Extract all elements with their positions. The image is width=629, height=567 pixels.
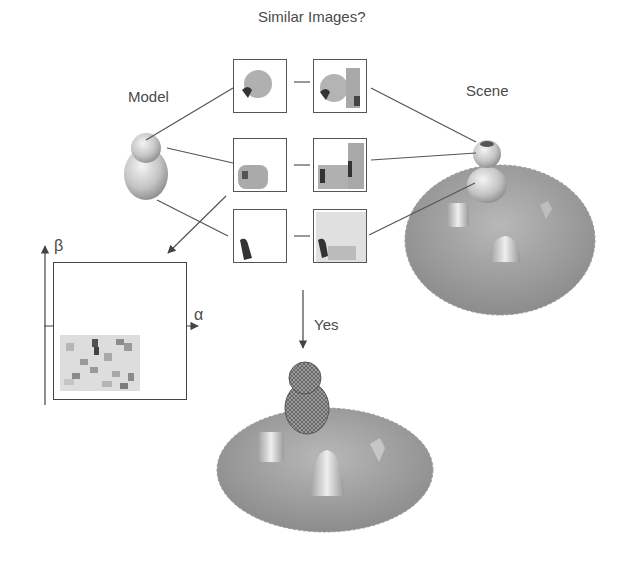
scene-surface <box>405 140 595 315</box>
spin-image-heatmap <box>54 263 188 401</box>
scene-spin-image-1 <box>313 59 367 113</box>
model-spin-image-2 <box>233 138 287 192</box>
scene-spin-image-2 <box>313 138 367 192</box>
model-spin-image-1 <box>233 59 287 113</box>
spin-image-plot <box>53 262 187 400</box>
model-spin-image-3 <box>233 209 287 263</box>
scene-spin-image-3 <box>313 209 367 263</box>
model-object <box>124 133 168 200</box>
result-scene <box>217 362 433 532</box>
